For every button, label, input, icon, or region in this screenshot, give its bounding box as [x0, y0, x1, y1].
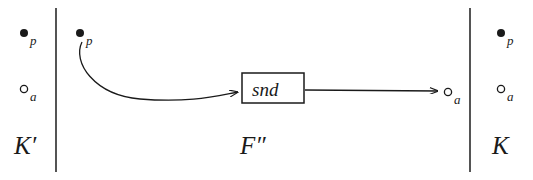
node-kprime-p-subscript: p: [30, 34, 37, 47]
node-fsec-p-subscript: p: [86, 34, 93, 47]
region-label-fsecond: F″: [240, 133, 266, 158]
node-fsec-p: [76, 29, 84, 37]
region-label-k: K: [492, 133, 509, 158]
node-k-a: [497, 85, 504, 92]
node-k-p: [497, 29, 505, 37]
node-kprime-a-subscript: a: [30, 90, 37, 103]
straight-edge: [305, 90, 438, 91]
curved-edge: [80, 42, 238, 100]
node-k-a-subscript: a: [507, 90, 514, 103]
node-kprime-a: [20, 85, 27, 92]
node-fsec-a: [444, 88, 451, 95]
node-k-p-subscript: p: [507, 34, 514, 47]
diagram-canvas: p a p a p a snd K′ F″ K: [0, 0, 533, 180]
snd-box-label: snd: [252, 80, 278, 99]
region-label-kprime: K′: [14, 133, 36, 158]
node-fsec-a-subscript: a: [454, 93, 461, 106]
node-kprime-p: [20, 29, 28, 37]
